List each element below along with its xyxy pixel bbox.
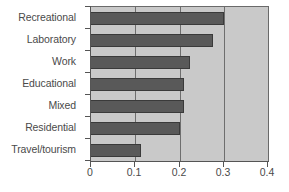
y-axis-tick [85,138,90,139]
y-axis-tick-label: Laboratory [0,28,80,50]
y-axis-tick-label: Educational [0,72,80,94]
y-axis-tick [85,94,90,95]
y-axis-tick [85,6,90,7]
bar-slot [91,73,268,95]
bar [91,78,184,91]
bar-slot [91,95,268,117]
y-axis-tick-label: Travel/tourism [0,138,80,160]
x-axis-tick-labels: 00.10.20.30.4 [0,166,289,182]
bar-slot [91,29,268,51]
bar [91,56,190,69]
y-axis-tick-label: Recreational [0,6,80,28]
bar [91,100,184,113]
x-axis-line [90,161,269,162]
x-axis-tick-label: 0.3 [216,166,231,178]
y-axis-category-labels: Recreational Laboratory Work Educational… [0,6,80,160]
y-axis-tick [85,116,90,117]
x-axis-tick-label: 0 [87,166,93,178]
y-axis-tick-label: Work [0,50,80,72]
bar-slot [91,117,268,139]
y-axis-tick-label: Mixed [0,94,80,116]
bar-slot [91,7,268,29]
plot-area [91,6,269,161]
y-axis-tick [85,72,90,73]
bar [91,122,180,135]
y-axis-tick [85,28,90,29]
bar [91,144,141,157]
bar-slot [91,51,268,73]
y-axis-tick-label: Residential [0,116,80,138]
y-axis-tick [85,50,90,51]
bar [91,34,213,47]
x-axis-tick-label: 0.2 [172,166,187,178]
bar [91,12,224,25]
bar-chart: Recreational Laboratory Work Educational… [0,0,289,192]
x-axis-tick-label: 0.1 [127,166,142,178]
bar-series [91,7,268,161]
x-axis-tick-label: 0.4 [260,166,275,178]
bar-slot [91,139,268,161]
